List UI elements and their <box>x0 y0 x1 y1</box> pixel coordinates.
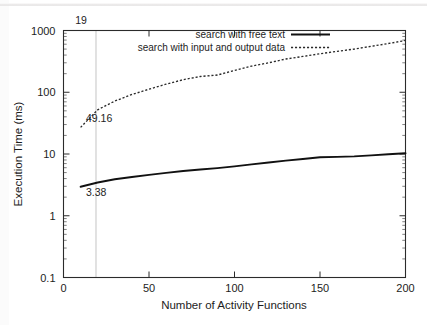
x-tick-label: 0 <box>60 282 66 294</box>
annotation-solid-value-338: 3.38 <box>86 186 107 198</box>
x-axis-title: Number of Activity Functions <box>161 299 307 311</box>
y-tick-label: 1000 <box>31 25 55 37</box>
y-axis-ticks <box>64 31 406 278</box>
y-axis-title: Execution Time (ms) <box>12 101 24 206</box>
y-tick-label: 0.1 <box>40 272 55 284</box>
y-tick-label: 10 <box>43 148 55 160</box>
x-tick-label: 200 <box>396 282 414 294</box>
series-line-search-free-text <box>81 153 406 187</box>
y-axis-tick-labels: 0.11101001000 <box>31 25 55 284</box>
legend-label-search-input-output: search with input and output data <box>138 42 286 53</box>
y-tick-label: 1 <box>49 210 55 222</box>
x-tick-label: 50 <box>143 282 155 294</box>
series-line-search-input-output <box>81 40 406 127</box>
y-tick-label: 100 <box>37 86 55 98</box>
chart-figure: 0.11101001000 050100150200 search with f… <box>0 0 427 325</box>
x-tick-label: 100 <box>225 282 243 294</box>
execution-time-line-chart: 0.11101001000 050100150200 search with f… <box>0 0 427 325</box>
scan-line-artifact <box>0 3 427 6</box>
plot-frame <box>64 31 406 278</box>
legend-label-search-free-text: search with free text <box>196 29 286 40</box>
x-tick-label: 150 <box>311 282 329 294</box>
annotation-x-marker-19: 19 <box>75 14 87 26</box>
x-axis-ticks <box>64 31 406 278</box>
chart-legend: search with free text search with input … <box>138 29 330 53</box>
annotation-dotted-value-4916: 49.16 <box>86 112 112 124</box>
x-axis-tick-labels: 050100150200 <box>60 282 414 294</box>
scan-edge-artifact <box>0 0 9 325</box>
y-axis-minor-ticks <box>64 33 406 259</box>
